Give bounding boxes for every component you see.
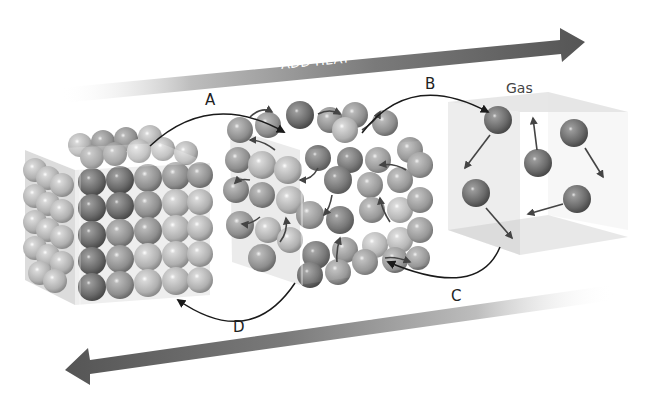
transition-label-c: C (451, 287, 461, 305)
liquid-cube (223, 101, 433, 288)
transition-label-a: A (205, 91, 215, 109)
remove-heat-arrow (65, 285, 614, 385)
transition-label-d: D (233, 318, 245, 336)
gas-state-label: Gas (506, 80, 533, 96)
solid-cube (23, 125, 213, 305)
transition-label-b: B (425, 75, 435, 93)
gas-box (448, 92, 628, 255)
phase-change-diagram: ADD HEAT REMOVE HEAT A B C D Gas (0, 0, 650, 407)
